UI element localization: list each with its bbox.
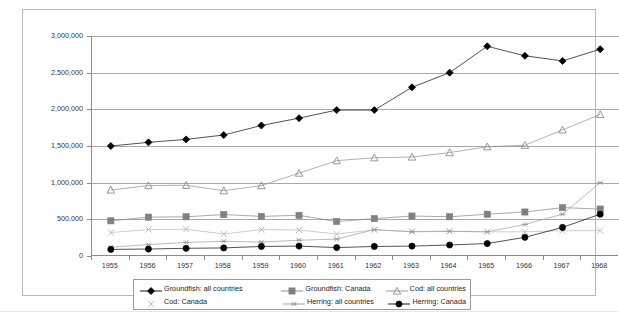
- x-tick-mark: [580, 256, 581, 260]
- chart-legend: Groundfish: all countries Groundfish: Ca…: [133, 279, 471, 310]
- x-tick-mark: [317, 256, 318, 260]
- x-tick-label: 1961: [316, 261, 356, 270]
- x-tick-mark: [91, 256, 92, 260]
- legend-label: Groundfish: Canada: [305, 284, 370, 293]
- asterisk-marker: [291, 301, 297, 305]
- series-groundfish-canada: [108, 205, 604, 225]
- series-groundfish-all-countries: [107, 43, 603, 150]
- diamond-marker: [333, 107, 340, 114]
- diamond-marker: [484, 43, 491, 50]
- diamond-marker: [183, 136, 190, 143]
- legend-label: Cod: Canada: [164, 297, 207, 306]
- diamond-marker: [296, 115, 303, 122]
- diamond-marker: [521, 52, 528, 59]
- legend-row-2: Cod: Canada Herring: all countries Herri…: [138, 295, 466, 308]
- x-tick-label: 1957: [165, 261, 205, 270]
- asterisk-marker: [221, 239, 227, 243]
- y-tick-label: 2,000,000: [27, 104, 83, 113]
- y-tick-label: 0: [27, 251, 83, 260]
- square-marker: [296, 212, 302, 218]
- x-tick-label: 1968: [579, 261, 619, 270]
- diamond-marker: [446, 69, 453, 76]
- diamond-marker: [148, 287, 155, 294]
- diamond-marker: [145, 139, 152, 146]
- circle-marker: [258, 243, 264, 249]
- asterisk-marker: [334, 237, 340, 241]
- circle-marker: [522, 234, 528, 240]
- x-tick-mark: [355, 256, 356, 260]
- series-cod-canada: [108, 226, 604, 237]
- x-tick-mark: [543, 256, 544, 260]
- circle-marker: [371, 243, 377, 249]
- x-tick-label: 1959: [240, 261, 280, 270]
- series-layer: [92, 36, 619, 256]
- y-tick-label: 1,000,000: [27, 178, 83, 187]
- x-tick-label: 1958: [203, 261, 243, 270]
- square-marker: [484, 211, 490, 217]
- x-tick-mark: [505, 256, 506, 260]
- y-tick-mark: [87, 36, 91, 37]
- square-marker: [522, 209, 528, 215]
- legend-item-cod-canada[interactable]: Cod: Canada: [138, 295, 281, 308]
- circle-marker: [484, 240, 490, 246]
- square-marker: [183, 214, 189, 220]
- legend-label: Herring: Canada: [412, 297, 466, 306]
- y-tick-mark: [87, 73, 91, 74]
- x-tick-label: 1963: [391, 261, 431, 270]
- y-tick-mark: [87, 219, 91, 220]
- square-marker: [559, 205, 565, 211]
- x-tick-label: 1964: [429, 261, 469, 270]
- square-marker: [334, 218, 340, 224]
- legend-item-herring-all-countries[interactable]: Herring: all countries: [281, 295, 386, 308]
- square-marker: [371, 216, 377, 222]
- circle-marker: [409, 243, 415, 249]
- x-tick-label: 1962: [353, 261, 393, 270]
- asterisk-marker: [484, 230, 490, 234]
- x-tick-label: 1956: [127, 261, 167, 270]
- legend-item-groundfish-canada[interactable]: Groundfish: Canada: [279, 282, 383, 295]
- x-tick-mark: [204, 256, 205, 260]
- cross-marker-icon: [138, 296, 164, 308]
- x-tick-mark: [467, 256, 468, 260]
- legend-item-cod-all-countries[interactable]: Cod: all countries: [384, 282, 466, 295]
- series-herring-all-countries: [108, 180, 604, 249]
- circle-marker-icon: [386, 296, 412, 308]
- x-tick-label: 1967: [542, 261, 582, 270]
- chart-frame: 3,000,0002,500,0002,000,0001,500,0001,00…: [22, 9, 596, 296]
- triangle-marker: [596, 111, 603, 118]
- legend-label: Cod: all countries: [410, 284, 466, 293]
- x-tick-mark: [392, 256, 393, 260]
- asterisk-marker: [183, 240, 189, 244]
- x-tick-label: 1955: [90, 261, 130, 270]
- cross-marker: [148, 300, 154, 306]
- legend-item-herring-canada[interactable]: Herring: Canada: [386, 295, 466, 308]
- square-marker-icon: [279, 283, 305, 295]
- circle-marker: [396, 300, 402, 306]
- circle-marker: [334, 244, 340, 250]
- triangle-marker-icon: [384, 283, 410, 295]
- square-marker: [258, 213, 264, 219]
- circle-marker: [108, 246, 114, 252]
- square-marker: [108, 218, 114, 224]
- x-tick-mark: [129, 256, 130, 260]
- y-tick-mark: [87, 146, 91, 147]
- square-marker: [447, 214, 453, 220]
- x-tick-mark: [242, 256, 243, 260]
- circle-marker: [145, 246, 151, 252]
- plot-area: [91, 36, 618, 256]
- circle-marker: [559, 224, 565, 230]
- circle-marker: [221, 245, 227, 251]
- y-tick-label: 500,000: [27, 214, 83, 223]
- y-tick-mark: [87, 109, 91, 110]
- x-tick-mark: [430, 256, 431, 260]
- asterisk-marker-icon: [281, 296, 307, 308]
- legend-label: Groundfish: all countries: [164, 284, 243, 293]
- x-tick-label: 1966: [504, 261, 544, 270]
- legend-item-groundfish-all-countries[interactable]: Groundfish: all countries: [138, 282, 279, 295]
- y-tick-mark: [87, 183, 91, 184]
- x-tick-label: 1960: [278, 261, 318, 270]
- y-tick-label: 2,500,000: [27, 68, 83, 77]
- circle-marker: [296, 243, 302, 249]
- asterisk-marker: [296, 238, 302, 242]
